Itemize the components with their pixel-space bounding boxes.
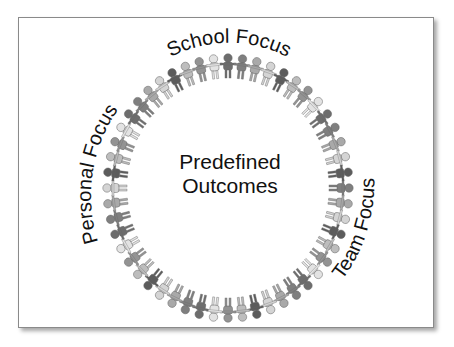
person-figure-icon — [104, 206, 132, 228]
center-label-line-1: Predefined — [130, 150, 330, 174]
person-figure-icon — [245, 293, 266, 320]
center-label: Predefined Outcomes — [130, 150, 330, 198]
person-figure-icon — [220, 54, 236, 78]
person-figure-icon — [327, 164, 353, 183]
center-label-line-2: Outcomes — [130, 174, 330, 198]
person-figure-icon — [327, 193, 353, 212]
person-figure-icon — [103, 180, 127, 196]
person-figure-icon — [329, 180, 353, 196]
person-figure-icon — [103, 193, 129, 212]
person-figure-icon — [103, 164, 129, 183]
person-figure-icon — [220, 298, 236, 322]
person-figure-icon — [190, 56, 211, 83]
